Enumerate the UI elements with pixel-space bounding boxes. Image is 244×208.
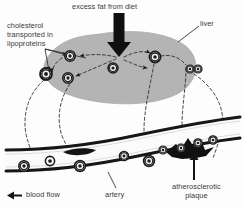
blood-flow-arrow [7,192,22,200]
figure-root: excess fat from diet cholesterol transpo… [0,0,244,208]
label-atherosclerotic-plaque: atherosclerotic plaque [172,182,221,200]
label-liver: liver [200,19,214,28]
label-blood-flow: blood flow [26,190,60,199]
label-artery: artery [105,190,124,199]
label-excess-fat: excess fat from diet [72,2,137,11]
liver-leader-line [178,26,199,42]
artery-vessel [6,117,240,171]
label-cholesterol-transported: cholesterol transported in lipoproteins [7,21,53,49]
artery-leader-line [108,172,116,188]
